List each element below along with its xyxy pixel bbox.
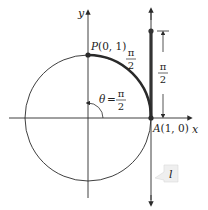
- y-axis-label: y: [77, 7, 85, 20]
- theta-symbol: θ: [99, 93, 106, 105]
- point-P-label: P(0, 1): [90, 40, 126, 52]
- arc-label-num: π: [128, 47, 135, 58]
- point-A-label: A(1, 0): [152, 122, 189, 134]
- theta-equals: =: [107, 93, 116, 105]
- line-l-callout: [155, 165, 178, 182]
- point-A-dot: [148, 115, 153, 120]
- segment-endpoint-dot: [148, 28, 153, 33]
- unit-circle-diagram: y x P(0, 1) A(1, 0) π 2 π 2 θ = π 2 l: [0, 0, 208, 210]
- theta-num: π: [118, 88, 125, 99]
- x-axis-label: x: [192, 123, 199, 136]
- angle-theta-arc: [88, 103, 103, 118]
- segment-label-den: 2: [160, 74, 166, 85]
- segment-label-num: π: [160, 61, 167, 72]
- point-P-dot: [85, 52, 90, 57]
- theta-den: 2: [118, 101, 124, 112]
- arc-label-den: 2: [128, 60, 134, 71]
- line-l-label: l: [169, 168, 173, 181]
